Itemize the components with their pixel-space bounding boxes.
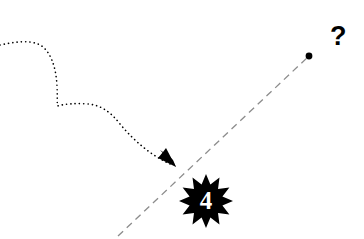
diagram-canvas: 4 ? — [0, 0, 364, 239]
curve-arrowhead — [158, 148, 176, 167]
scene-vector-layer — [0, 0, 364, 239]
endpoint-dot-marker — [306, 53, 313, 60]
starburst-badge-shape — [179, 174, 233, 228]
question-mark-label: ? — [330, 23, 347, 50]
dotted-curve-arrow-path — [0, 42, 170, 164]
